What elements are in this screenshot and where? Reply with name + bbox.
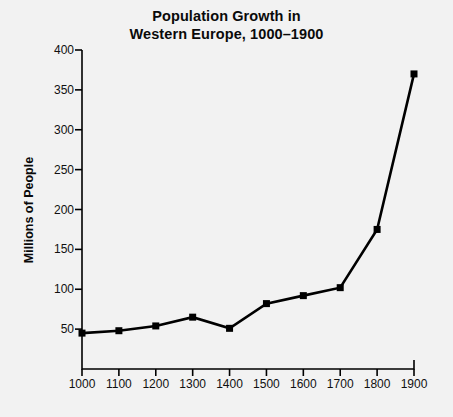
data-point-marker bbox=[152, 322, 159, 329]
y-axis-tick-label: 300 bbox=[54, 124, 74, 136]
axis-lines bbox=[82, 50, 414, 369]
data-point-marker bbox=[300, 292, 307, 299]
x-axis-tick-label: 1900 bbox=[391, 378, 437, 390]
data-point-marker bbox=[226, 325, 233, 332]
y-axis-tick-labels: 50100150200250300350400 bbox=[36, 50, 74, 369]
chart-title: Population Growth in Western Europe, 100… bbox=[0, 7, 453, 43]
data-point-marker bbox=[263, 300, 270, 307]
data-point-marker bbox=[337, 284, 344, 291]
data-line bbox=[82, 74, 414, 333]
data-point-marker bbox=[115, 327, 122, 334]
data-point-marker bbox=[374, 226, 381, 233]
y-axis-tick-label: 200 bbox=[54, 204, 74, 216]
x-axis-tick-labels: 1000110012001300140015001600170018001900 bbox=[82, 378, 414, 394]
y-axis-tick-label: 50 bbox=[61, 323, 74, 335]
axis-frame bbox=[82, 50, 414, 369]
y-axis-tick-label: 250 bbox=[54, 164, 74, 176]
chart-title-line-1: Population Growth in bbox=[0, 7, 453, 25]
y-axis-tick-label: 150 bbox=[54, 243, 74, 255]
chart-title-line-2: Western Europe, 1000–1900 bbox=[0, 25, 453, 43]
y-axis-tick-label: 400 bbox=[54, 44, 74, 56]
y-axis-title-text: Millions of People bbox=[22, 157, 36, 263]
data-point-marker bbox=[411, 70, 418, 77]
plot-area bbox=[82, 50, 414, 369]
x-axis-ticks bbox=[82, 369, 414, 376]
y-axis-tick-label: 350 bbox=[54, 84, 74, 96]
data-point-marker bbox=[79, 330, 86, 337]
y-axis-tick-label: 100 bbox=[54, 283, 74, 295]
data-point-markers bbox=[79, 70, 418, 336]
y-axis-ticks bbox=[75, 50, 82, 329]
data-point-marker bbox=[189, 314, 196, 321]
chart-figure: Population Growth in Western Europe, 100… bbox=[0, 0, 453, 417]
line-chart-svg bbox=[82, 50, 414, 369]
